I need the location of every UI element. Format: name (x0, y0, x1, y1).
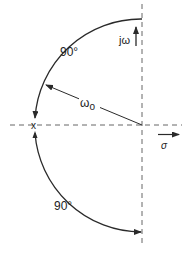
real-axis-label: σ (161, 140, 168, 151)
radius-label: ωo (80, 96, 95, 112)
radius-label-main: ω (80, 96, 89, 110)
radius-label-subscript: o (89, 101, 95, 112)
imag-axis-label: jω (118, 34, 130, 46)
upper-angle-label: 90° (60, 45, 78, 59)
s-plane-diagram: x jω σ 90° 90° ωo (0, 0, 188, 266)
radius-line-omega0-outer (46, 85, 79, 99)
lower-angle-label: 90° (54, 199, 72, 213)
lower-arc-start-arrow-icon (33, 131, 38, 138)
pole-marker: x (31, 120, 36, 131)
lower-arc-90deg (35, 133, 141, 232)
radius-line-omega0 (100, 108, 142, 126)
